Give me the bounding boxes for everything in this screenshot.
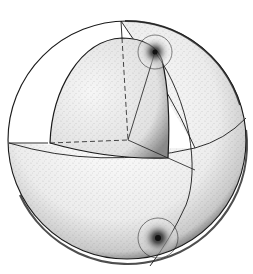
upper-source bbox=[138, 35, 172, 69]
lower-source bbox=[138, 218, 178, 258]
cutaway-sphere-diagram bbox=[0, 0, 253, 274]
